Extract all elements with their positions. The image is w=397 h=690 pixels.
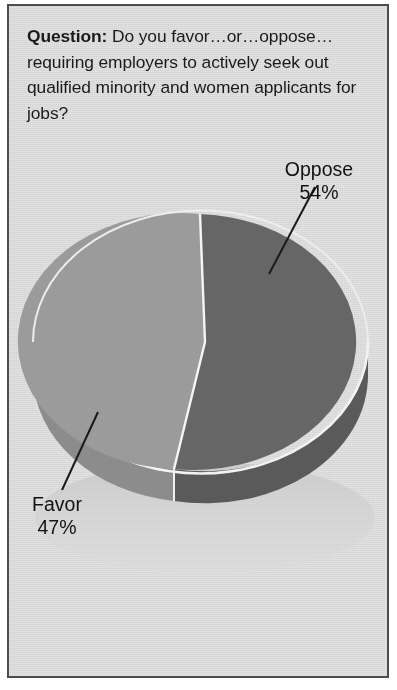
pie-label-oppose-percent: 54% — [277, 181, 361, 204]
pie-label-oppose-name: Oppose — [285, 158, 353, 180]
pie-label-oppose: Oppose 54% — [277, 158, 361, 204]
question-lead: Question: — [27, 26, 107, 46]
pie-label-favor-percent: 47% — [17, 516, 97, 539]
pie-label-favor: Favor 47% — [17, 493, 97, 539]
pie-label-favor-name: Favor — [32, 493, 82, 515]
pie-slice-favor — [18, 213, 205, 469]
chart-panel: Question: Do you favor…or…oppose… requir… — [7, 4, 389, 678]
question-text: Question: Do you favor…or…oppose… requir… — [27, 24, 375, 126]
figure-container: Question: Do you favor…or…oppose… requir… — [0, 0, 397, 690]
